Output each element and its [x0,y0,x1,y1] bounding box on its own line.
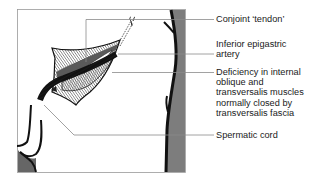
label-line: Spermatic cord [216,130,278,140]
label-line: transversalis fascia [216,108,304,118]
label-line: Conjoint ‘tendon’ [216,14,284,24]
label-conjoint-tendon: Conjoint ‘tendon’ [216,14,284,24]
epigastric-artery-2 [120,23,133,46]
label-line: artery [216,49,286,59]
label-line: normally closed by [216,98,304,108]
label-spermatic-cord: Spermatic cord [216,130,278,140]
epigastric-artery [118,21,131,44]
left-outline-outer [17,105,31,146]
body-outline-branch-lower [166,96,168,112]
label-line: oblique and [216,77,304,87]
label-deficiency: Deficiency in internal oblique and trans… [216,67,304,118]
label-line: transversalis muscles [216,87,304,97]
label-line: Inferior epigastric [216,39,286,49]
label-line: Deficiency in internal [216,67,304,77]
leader-spermatic-diag [44,105,74,135]
label-inferior-epigastric-artery: Inferior epigastric artery [216,39,286,59]
